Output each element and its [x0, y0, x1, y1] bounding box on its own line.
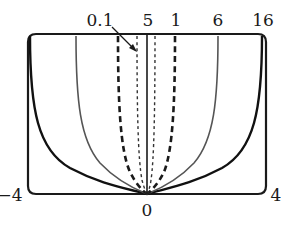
- label-0.1: 0.1: [86, 10, 113, 30]
- curve-0.1-left: [137, 36, 147, 194]
- curve-6-right: [147, 36, 218, 194]
- curve-1-right: [147, 36, 175, 194]
- level-curves-figure: 0.1 5 1 6 16 −4 4 0: [0, 0, 281, 228]
- curve-0.1-right: [147, 36, 155, 194]
- axis-label-left: −4: [0, 185, 23, 205]
- label-5: 5: [143, 10, 154, 30]
- axis-label-right: 4: [271, 185, 281, 205]
- axis-label-bottom: 0: [142, 200, 153, 220]
- curve-1-left: [118, 36, 147, 194]
- label-16: 16: [252, 10, 274, 30]
- label-1: 1: [171, 10, 182, 30]
- label-6: 6: [213, 10, 224, 30]
- curve-6-left: [76, 36, 147, 194]
